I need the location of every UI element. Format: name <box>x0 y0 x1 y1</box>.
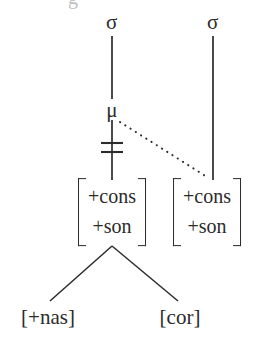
feature-rows: +cons +son <box>182 178 232 246</box>
sigma-node-left: σ <box>106 12 118 33</box>
terminal-feature-cor: [cor] <box>160 307 201 328</box>
bracket-left-close <box>138 178 146 246</box>
feature-row: +son <box>92 212 131 242</box>
bracket-left-open <box>78 178 86 246</box>
feature-row: +son <box>187 212 226 242</box>
bracket-right-open <box>173 178 181 246</box>
edge-matrix-left-to-nas <box>50 246 112 301</box>
mu-node: μ <box>106 100 117 121</box>
association-lines-layer <box>0 0 267 343</box>
feature-matrix-right: +cons +son <box>173 178 241 246</box>
edge-matrix-left-to-cor <box>112 246 178 301</box>
feature-rows: +cons +son <box>87 178 137 246</box>
edge-mu-to-matrix-right-dotted <box>120 122 207 177</box>
phonological-tree-diagram: g σ σ μ +cons +son +cons +son <box>0 0 267 343</box>
feature-matrix-left: +cons +son <box>78 178 146 246</box>
feature-row: +cons <box>88 181 136 211</box>
bracket-right-close <box>233 178 241 246</box>
sigma-node-right: σ <box>207 12 219 33</box>
feature-row: +cons <box>183 181 231 211</box>
terminal-feature-nas: [+nas] <box>21 307 75 328</box>
